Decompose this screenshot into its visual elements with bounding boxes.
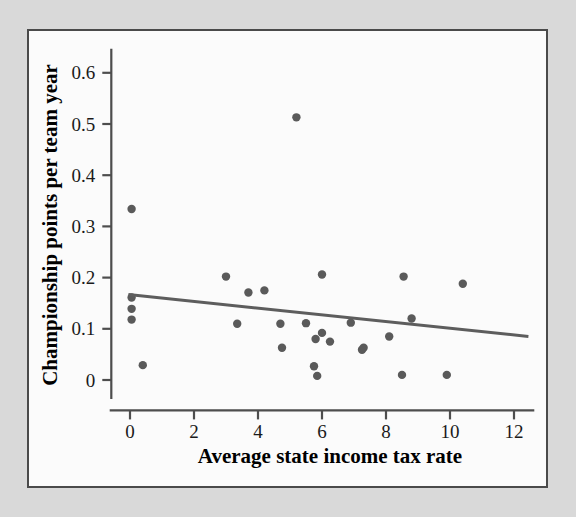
x-tick-label: 0	[125, 421, 135, 442]
data-point	[398, 371, 406, 379]
y-tick-label: 0.3	[72, 216, 96, 237]
y-tick-label: 0	[86, 370, 96, 391]
x-tick-label: 6	[317, 421, 327, 442]
data-point	[399, 272, 407, 280]
figure-container: 00.10.20.30.40.50.6 024681012 Average st…	[0, 0, 576, 517]
y-axis: 00.10.20.30.40.50.6	[72, 50, 112, 398]
y-tick-label: 0.1	[72, 318, 96, 339]
y-tick-label: 0.5	[72, 114, 96, 135]
data-point	[244, 288, 252, 296]
scatter-plot: 00.10.20.30.40.50.6 024681012 Average st…	[0, 0, 576, 517]
data-points	[127, 113, 467, 380]
data-point	[347, 318, 355, 326]
data-point	[233, 319, 241, 327]
x-tick-label: 12	[505, 421, 524, 442]
x-axis-title: Average state income tax rate	[198, 444, 462, 468]
data-point	[443, 371, 451, 379]
data-point	[276, 319, 284, 327]
data-point	[302, 319, 310, 327]
data-point	[311, 335, 319, 343]
x-axis: 024681012	[111, 410, 533, 442]
data-point	[313, 372, 321, 380]
y-tick-label: 0.4	[72, 165, 96, 186]
data-point	[127, 205, 135, 213]
data-point	[222, 272, 230, 280]
y-tick-label: 0.6	[72, 62, 96, 83]
data-point	[127, 315, 135, 323]
trend-line	[128, 294, 528, 336]
data-point	[459, 280, 467, 288]
data-point	[139, 361, 147, 369]
data-point	[310, 362, 318, 370]
data-point	[292, 113, 300, 121]
data-point	[326, 337, 334, 345]
data-point	[385, 332, 393, 340]
x-tick-label: 2	[189, 421, 199, 442]
x-tick-label: 4	[253, 421, 263, 442]
x-tick-label: 10	[441, 421, 460, 442]
y-axis-title: Championship points per team year	[38, 64, 62, 386]
data-point	[127, 305, 135, 313]
regression-line	[128, 294, 528, 336]
data-point	[318, 270, 326, 278]
x-tick-label: 8	[381, 421, 391, 442]
y-tick-label: 0.2	[72, 267, 96, 288]
data-point	[407, 314, 415, 322]
data-point	[278, 344, 286, 352]
data-point	[359, 344, 367, 352]
data-point	[318, 329, 326, 337]
data-point	[260, 286, 268, 294]
